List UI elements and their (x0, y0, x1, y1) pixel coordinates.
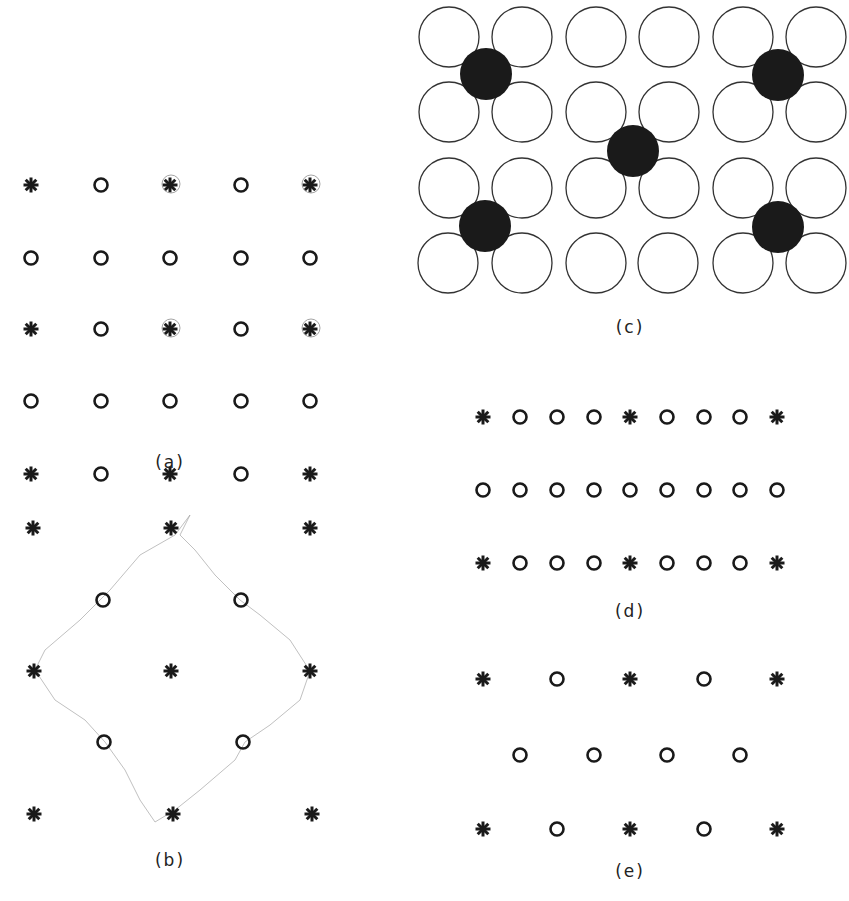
open-circle-atom-icon (235, 594, 248, 607)
open-circle-atom-icon (235, 179, 248, 192)
asterisk-atom-icon (770, 822, 785, 837)
interstitial-atom-filled (459, 200, 511, 252)
large-atom-circle (566, 7, 626, 67)
asterisk-atom-icon (26, 521, 41, 536)
open-circle-atom-icon (95, 252, 108, 265)
asterisk-atom-icon (27, 807, 42, 822)
open-circle-atom-icon (514, 749, 527, 762)
open-circle-atom-icon (698, 823, 711, 836)
interstitial-atom-filled (460, 48, 512, 100)
open-circle-atom-icon (698, 411, 711, 424)
asterisk-atom-icon (24, 467, 39, 482)
asterisk-atom-icon (164, 521, 179, 536)
asterisk-atom-icon (623, 410, 638, 425)
open-circle-atom-icon (734, 484, 747, 497)
open-circle-atom-icon (235, 252, 248, 265)
open-circle-atom-icon (588, 749, 601, 762)
open-circle-atom-icon (304, 252, 317, 265)
open-circle-atom-icon (95, 395, 108, 408)
open-circle-atom-icon (164, 395, 177, 408)
asterisk-atom-icon (770, 556, 785, 571)
open-circle-atom-icon (514, 411, 527, 424)
open-circle-atom-icon (477, 484, 490, 497)
open-circle-atom-icon (98, 736, 111, 749)
panel-label-c: (c) (616, 317, 645, 337)
open-circle-atom-icon (235, 468, 248, 481)
interstitial-atom-filled (607, 125, 659, 177)
panel-label-b: (b) (155, 850, 185, 870)
open-circle-atom-icon (95, 179, 108, 192)
panel-b-centered-lattice: (b) (26, 515, 320, 870)
open-circle-atom-icon (661, 749, 674, 762)
panel-label-d: (d) (615, 601, 645, 621)
open-circle-atom-icon (551, 673, 564, 686)
open-circle-atom-icon (698, 484, 711, 497)
open-circle-atom-icon (237, 736, 250, 749)
open-circle-atom-icon (734, 749, 747, 762)
panel-label-a: (a) (155, 452, 185, 472)
open-circle-atom-icon (551, 484, 564, 497)
open-circle-atom-icon (588, 484, 601, 497)
asterisk-atom-icon (476, 822, 491, 837)
panel-c-packed-spheres: (c) (418, 7, 846, 337)
open-circle-atom-icon (551, 557, 564, 570)
large-atom-circle (638, 233, 698, 293)
panel-e-staggered-lattice: (e) (476, 672, 785, 882)
asterisk-atom-icon (166, 807, 181, 822)
open-circle-atom-icon (624, 484, 637, 497)
open-circle-atom-icon (661, 484, 674, 497)
open-circle-atom-icon (661, 411, 674, 424)
asterisk-atom-icon (770, 672, 785, 687)
open-circle-atom-icon (734, 557, 747, 570)
open-circle-atom-icon (304, 395, 317, 408)
asterisk-atom-icon (623, 822, 638, 837)
open-circle-atom-icon (698, 673, 711, 686)
interstitial-atom-filled (752, 49, 804, 101)
interstitial-atom-filled (752, 201, 804, 253)
asterisk-atom-icon (623, 556, 638, 571)
open-circle-atom-icon (661, 557, 674, 570)
asterisk-atom-icon (303, 664, 318, 679)
open-circle-atom-icon (97, 594, 110, 607)
panel-a-square-lattice: (a) (24, 175, 321, 482)
lattice-figure: (a) (b) (c) (d) (e) (0, 0, 849, 901)
large-atom-circle (566, 233, 626, 293)
asterisk-atom-icon (770, 410, 785, 425)
asterisk-atom-icon (24, 322, 39, 337)
asterisk-atom-icon (623, 672, 638, 687)
open-circle-atom-icon (95, 468, 108, 481)
asterisk-atom-icon (476, 410, 491, 425)
open-circle-atom-icon (734, 411, 747, 424)
panel-d-rectangular-lattice: (d) (476, 410, 785, 622)
asterisk-atom-icon (164, 664, 179, 679)
open-circle-atom-icon (698, 557, 711, 570)
open-circle-atom-icon (25, 395, 38, 408)
open-circle-atom-icon (235, 323, 248, 336)
asterisk-atom-icon (476, 672, 491, 687)
asterisk-atom-icon (305, 807, 320, 822)
open-circle-atom-icon (551, 411, 564, 424)
asterisk-atom-icon (303, 467, 318, 482)
open-circle-atom-icon (551, 823, 564, 836)
asterisk-atom-icon (303, 521, 318, 536)
open-circle-atom-icon (588, 557, 601, 570)
asterisk-atom-icon (24, 178, 39, 193)
open-circle-atom-icon (164, 252, 177, 265)
large-atom-circle (639, 7, 699, 67)
asterisk-atom-icon (27, 664, 42, 679)
open-circle-atom-icon (771, 484, 784, 497)
open-circle-atom-icon (588, 411, 601, 424)
open-circle-atom-icon (514, 484, 527, 497)
open-circle-atom-icon (514, 557, 527, 570)
open-circle-atom-icon (235, 395, 248, 408)
asterisk-atom-icon (476, 556, 491, 571)
open-circle-atom-icon (25, 252, 38, 265)
panel-label-e: (e) (615, 861, 645, 881)
open-circle-atom-icon (95, 323, 108, 336)
